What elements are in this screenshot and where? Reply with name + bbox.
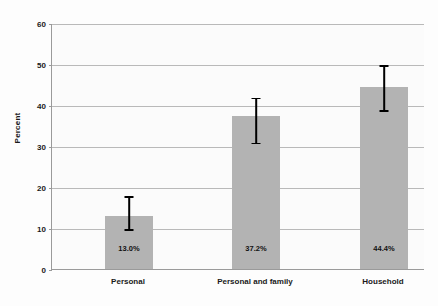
bar-value-label: 44.4% bbox=[360, 244, 408, 253]
error-bar-cap bbox=[252, 98, 261, 100]
y-tick-label: 30 bbox=[20, 143, 46, 152]
error-bar-cap bbox=[380, 65, 389, 67]
y-tick-mark bbox=[49, 65, 52, 66]
plot-area: 13.0%37.2%44.4% bbox=[51, 24, 424, 270]
y-tick-label: 10 bbox=[20, 225, 46, 234]
x-category-label: Personal bbox=[111, 277, 145, 286]
gridline bbox=[52, 24, 424, 25]
error-bar-cap bbox=[125, 229, 134, 231]
error-bar bbox=[383, 65, 385, 110]
bar-chart: Percent 13.0%37.2%44.4% 0102030405060 Pe… bbox=[0, 0, 438, 306]
y-tick-mark bbox=[49, 24, 52, 25]
bar-value-label: 37.2% bbox=[232, 244, 280, 253]
y-tick-label: 50 bbox=[20, 61, 46, 70]
bar: 44.4% bbox=[360, 87, 408, 269]
y-tick-label: 60 bbox=[20, 20, 46, 29]
bar-value-label: 13.0% bbox=[105, 244, 153, 253]
y-tick-mark bbox=[49, 270, 52, 271]
y-tick-label: 40 bbox=[20, 102, 46, 111]
error-bar-cap bbox=[380, 110, 389, 112]
x-category-label: Personal and family bbox=[217, 277, 293, 286]
gridline bbox=[52, 65, 424, 66]
y-tick-mark bbox=[49, 147, 52, 148]
error-bar-cap bbox=[125, 196, 134, 198]
y-axis-title: Percent bbox=[13, 88, 22, 168]
y-tick-mark bbox=[49, 106, 52, 107]
error-bar bbox=[128, 196, 130, 229]
error-bar bbox=[255, 98, 257, 143]
x-category-label: Household bbox=[362, 277, 403, 286]
y-tick-label: 0 bbox=[20, 266, 46, 275]
error-bar-cap bbox=[252, 143, 261, 145]
y-tick-mark bbox=[49, 229, 52, 230]
y-tick-mark bbox=[49, 188, 52, 189]
y-tick-label: 20 bbox=[20, 184, 46, 193]
